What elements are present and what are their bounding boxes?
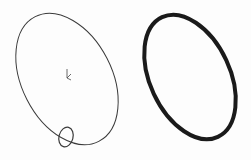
swept-ring xyxy=(126,0,251,153)
right-panel xyxy=(126,0,251,153)
profile-circle xyxy=(57,126,76,149)
sweep-path-ellipse xyxy=(0,0,139,160)
figure-canvas xyxy=(0,0,251,160)
origin-marker-icon xyxy=(67,69,71,80)
left-panel xyxy=(0,0,139,160)
